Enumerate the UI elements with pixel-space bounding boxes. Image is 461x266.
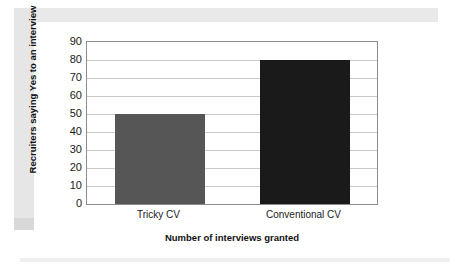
y-tick-label: 70 [42, 72, 82, 82]
y-tick-label: 20 [42, 162, 82, 172]
x-axis-category-labels: Tricky CVConventional CV [86, 209, 378, 225]
y-tick-label: 10 [42, 180, 82, 190]
y-tick-label: 30 [42, 144, 82, 154]
y-tick-label: 50 [42, 108, 82, 118]
plot-area [86, 41, 378, 205]
y-tick-label: 80 [42, 54, 82, 64]
bar [115, 114, 205, 204]
bar [260, 60, 350, 204]
x-axis-title: Number of interviews granted [86, 232, 378, 243]
bar-chart: Recruiters saying Yes to an interview 90… [0, 0, 461, 266]
y-tick-label: 40 [42, 126, 82, 136]
y-tick-label: 60 [42, 90, 82, 100]
y-tick-label: 0 [42, 198, 82, 208]
x-category-label: Tricky CV [86, 209, 231, 220]
y-axis-title: Recruiters saying Yes to an interview [27, 0, 38, 180]
x-category-label: Conventional CV [231, 209, 376, 220]
y-tick-label: 90 [42, 36, 82, 46]
y-axis-tick-labels: 9080706050403020100 [38, 41, 82, 205]
